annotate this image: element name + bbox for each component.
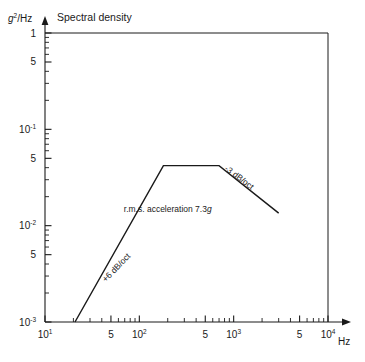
y-tick-label: 5 <box>30 56 36 67</box>
annotation-slope-up: +6 dB/oct <box>100 251 133 284</box>
chart-svg: 1510-1510-2510-3 101510251035104 g2/Hz S… <box>0 0 365 362</box>
y-tick-label: 10-2 <box>19 219 36 231</box>
x-tick-label: 5 <box>297 329 303 340</box>
x-tick-label: 102 <box>132 328 147 340</box>
x-axis-arrow-icon <box>342 319 351 326</box>
y-axis-tick-labels: 1510-1510-2510-3 <box>19 28 36 328</box>
annotation-rms-acceleration: r.m.s. acceleration 7.3g <box>124 204 212 214</box>
x-tick-label: 101 <box>38 328 53 340</box>
y-tick-label: 5 <box>30 249 36 260</box>
x-tick-label: 103 <box>226 328 241 340</box>
y-axis-ticks <box>45 33 52 322</box>
plot-frame <box>42 16 351 325</box>
spectral-density-chart: 1510-1510-2510-3 101510251035104 g2/Hz S… <box>0 0 365 362</box>
x-axis-label: Hz <box>338 336 350 347</box>
y-axis-label: g2/Hz <box>8 12 32 24</box>
annotation-slope-down: -3 dB/oct <box>223 163 257 192</box>
x-axis-ticks <box>45 316 328 323</box>
x-tick-label: 5 <box>202 329 208 340</box>
annotation-rms-text: r.m.s. acceleration 7.3 <box>124 204 207 214</box>
x-axis-tick-labels: 101510251035104 <box>38 328 336 340</box>
annotation-rms-unit: g <box>207 204 212 214</box>
y-axis-arrow-icon <box>42 16 49 25</box>
y-tick-label: 1 <box>30 28 36 39</box>
y-tick-label: 10-3 <box>19 316 36 328</box>
y-axis-label-rest: /Hz <box>17 13 32 24</box>
x-tick-label: 104 <box>321 328 336 340</box>
chart-title: Spectral density <box>57 11 132 23</box>
x-tick-label: 5 <box>108 329 114 340</box>
y-tick-label: 10-1 <box>19 123 36 135</box>
y-tick-label: 5 <box>30 153 36 164</box>
